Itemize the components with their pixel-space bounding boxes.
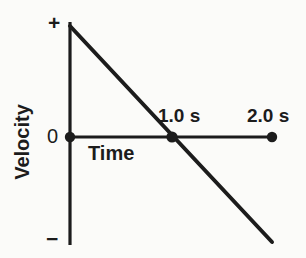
y-axis-zero-label: 0 [47,126,58,146]
annotation-t1: 1.0 s [158,106,200,125]
origin-marker-dot [65,132,75,142]
plot-area [0,0,306,258]
y-axis-positive-symbol: + [48,12,60,33]
velocity-time-figure: + − 0 Velocity Time 1.0 s 2.0 s [0,0,306,258]
y-axis-title: Velocity [12,96,32,188]
zero-crossing-marker-dot [166,131,177,142]
x-axis-title: Time [88,143,134,163]
annotation-t2: 2.0 s [247,106,289,125]
y-axis-negative-symbol: − [46,228,58,249]
axis-end-marker-dot [267,132,277,142]
